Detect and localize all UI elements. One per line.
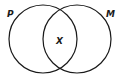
set-m-label: M	[106, 9, 115, 19]
set-p-label: P	[7, 9, 14, 19]
intersection-label: X	[55, 36, 64, 46]
venn-diagram: P M X	[0, 0, 120, 75]
